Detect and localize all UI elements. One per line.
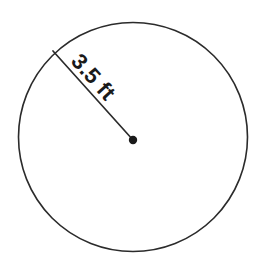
center-point-dot — [129, 136, 137, 144]
circle-radius-figure: 3.5 ft — [0, 0, 265, 264]
diagram-canvas: 3.5 ft — [0, 0, 265, 264]
